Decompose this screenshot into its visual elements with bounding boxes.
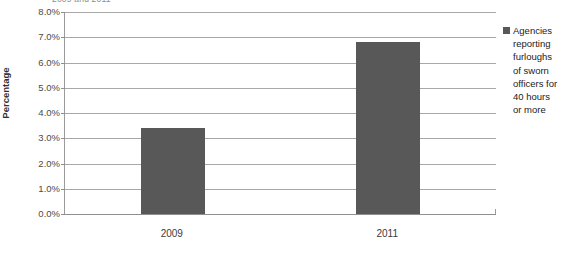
gridline — [65, 88, 496, 89]
gridline — [65, 113, 496, 114]
bar-chart-figure: 2009 and 2011 Percentage 0.0%1.0%2.0%3.0… — [0, 0, 569, 254]
y-axis-tick — [61, 37, 65, 38]
gridline — [65, 189, 496, 190]
gridline — [65, 12, 496, 13]
cropped-title-remnant: 2009 and 2011 — [52, 0, 212, 3]
gridline — [65, 63, 496, 64]
legend-item-label: Agencies reporting furloughs of sworn of… — [513, 24, 557, 116]
y-axis-tick-labels: 0.0%1.0%2.0%3.0%4.0%5.0%6.0%7.0%8.0% — [12, 12, 60, 214]
gridline — [65, 138, 496, 139]
y-axis-tick — [61, 138, 65, 139]
plot-area — [64, 12, 496, 214]
y-axis-tick — [61, 164, 65, 165]
y-axis-tick — [61, 113, 65, 114]
x-axis-tick-label: 2011 — [347, 228, 427, 239]
legend-item[interactable]: Agencies reporting furloughs of sworn of… — [503, 24, 565, 116]
gridline — [65, 37, 496, 38]
square-marker-icon — [503, 27, 510, 34]
y-axis-tick — [61, 12, 65, 13]
y-axis-tick-label: 3.0% — [16, 133, 60, 143]
y-axis-tick — [61, 63, 65, 64]
gridline — [65, 164, 496, 165]
gridline — [65, 214, 496, 215]
y-axis-tick — [61, 88, 65, 89]
bar[interactable] — [141, 128, 205, 214]
y-axis-tick-label: 6.0% — [16, 58, 60, 68]
y-axis-tick-label: 8.0% — [16, 7, 60, 17]
chart-legend: Agencies reporting furloughs of sworn of… — [503, 24, 565, 116]
y-axis-tick-label: 4.0% — [16, 108, 60, 118]
y-axis-tick-label: 5.0% — [16, 83, 60, 93]
y-axis-tick-label: 1.0% — [16, 184, 60, 194]
y-axis-tick-label: 7.0% — [16, 32, 60, 42]
y-axis-tick — [61, 189, 65, 190]
y-axis-tick-label: 0.0% — [16, 209, 60, 219]
bar[interactable] — [356, 42, 420, 214]
x-axis-tick-label: 2009 — [132, 228, 212, 239]
y-axis-tick — [61, 214, 65, 215]
y-axis-tick-label: 2.0% — [16, 159, 60, 169]
